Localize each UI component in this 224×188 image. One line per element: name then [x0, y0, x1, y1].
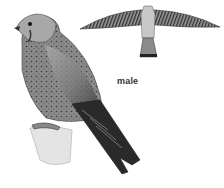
illustration-canvas: male	[0, 0, 224, 188]
sex-label: male	[117, 76, 138, 86]
kestrel-illustration	[0, 0, 224, 188]
flying-kestrel-figure	[80, 6, 220, 57]
perched-kestrel-figure	[14, 14, 140, 174]
